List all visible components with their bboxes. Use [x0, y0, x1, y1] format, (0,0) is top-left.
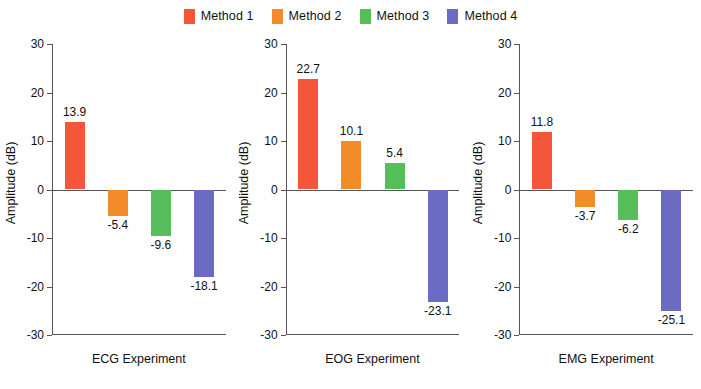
bar[interactable]: [661, 190, 681, 312]
y-axis-tick: [514, 335, 519, 336]
y-axis-tick: [514, 238, 519, 239]
bar-slot: -9.6: [139, 44, 182, 335]
y-axis-tick: [47, 335, 52, 336]
x-axis-label: EOG Experiment: [286, 352, 460, 366]
y-axis-tick-label: 20: [498, 86, 511, 100]
plot-area: 3020100-10-20-3022.710.15.4-23.1: [286, 44, 460, 335]
bar-value-label: 11.8: [531, 115, 553, 129]
y-axis-tick: [514, 93, 519, 94]
y-axis-tick-label: 10: [264, 134, 277, 148]
bar-slot: -25.1: [650, 44, 693, 335]
bar-value-label: -5.4: [107, 218, 128, 232]
chart-legend: Method 1Method 2Method 3Method 4: [0, 2, 701, 30]
legend-label: Method 2: [289, 9, 342, 23]
chart-panel: Amplitude (dB)3020100-10-20-3013.9-5.4-9…: [0, 30, 234, 389]
y-axis-tick-label: -10: [27, 231, 44, 245]
y-axis-tick-label: -30: [27, 328, 44, 342]
y-axis-tick-label: -10: [260, 231, 277, 245]
y-axis-tick-label: 20: [31, 86, 44, 100]
y-axis-label-text: Amplitude (dB): [4, 141, 18, 224]
bar-slot: -6.2: [607, 44, 650, 335]
plot-area: 3020100-10-20-3013.9-5.4-9.6-18.1: [52, 44, 226, 335]
bar-slot: -5.4: [96, 44, 139, 335]
legend-entry: Method 2: [272, 9, 342, 24]
y-axis-tick: [47, 44, 52, 45]
bar-slot: 5.4: [373, 44, 416, 335]
x-axis-label: ECG Experiment: [52, 352, 226, 366]
y-axis-tick-label: 30: [498, 37, 511, 51]
bar-slot: -18.1: [183, 44, 226, 335]
bar-slot: 22.7: [287, 44, 330, 335]
bar[interactable]: [575, 190, 595, 208]
x-axis-label: EMG Experiment: [519, 352, 693, 366]
figure: Method 1Method 2Method 3Method 4 Amplitu…: [0, 0, 701, 389]
legend-entry: Method 1: [184, 9, 254, 24]
legend-swatch-icon: [184, 9, 195, 24]
chart-panel: Amplitude (dB)3020100-10-20-3022.710.15.…: [234, 30, 468, 389]
y-axis-label-text: Amplitude (dB): [471, 141, 485, 224]
y-axis-label: Amplitude (dB): [2, 30, 20, 335]
y-axis-tick: [47, 93, 52, 94]
y-axis-tick: [281, 335, 286, 336]
y-axis-tick-label: -30: [494, 328, 511, 342]
y-axis-tick-label: -20: [260, 280, 277, 294]
bar-value-label: -6.2: [618, 222, 639, 236]
y-axis-tick: [47, 287, 52, 288]
y-axis-tick-label: 0: [271, 183, 278, 197]
y-axis-tick-label: 20: [264, 86, 277, 100]
y-axis-label: Amplitude (dB): [469, 30, 487, 335]
bar-slot: -23.1: [416, 44, 459, 335]
y-axis-tick: [514, 44, 519, 45]
bar[interactable]: [151, 190, 171, 237]
y-axis-tick: [514, 141, 519, 142]
y-axis-tick-label: -20: [494, 280, 511, 294]
bar-value-label: 5.4: [386, 146, 403, 160]
y-axis-tick-label: -30: [260, 328, 277, 342]
y-axis-label-text: Amplitude (dB): [238, 141, 252, 224]
y-axis-tick-label: 0: [505, 183, 512, 197]
bar-group: 22.710.15.4-23.1: [287, 44, 460, 335]
bar[interactable]: [341, 141, 361, 190]
bar-value-label: -25.1: [658, 313, 685, 327]
y-axis-tick: [281, 141, 286, 142]
legend-label: Method 3: [377, 9, 430, 23]
bar-slot: -3.7: [564, 44, 607, 335]
y-axis-tick: [281, 93, 286, 94]
legend-entry: Method 4: [447, 9, 517, 24]
y-axis-tick-label: -10: [494, 231, 511, 245]
y-axis-tick: [47, 238, 52, 239]
bar-value-label: -23.1: [424, 304, 451, 318]
bar-slot: 11.8: [520, 44, 563, 335]
bar[interactable]: [108, 190, 128, 216]
legend-label: Method 1: [201, 9, 254, 23]
bar[interactable]: [428, 190, 448, 302]
y-axis-tick: [281, 238, 286, 239]
y-axis-tick: [514, 287, 519, 288]
y-axis-tick-label: -20: [27, 280, 44, 294]
y-axis-tick: [281, 287, 286, 288]
plot-area: 3020100-10-20-3011.8-3.7-6.2-25.1: [519, 44, 693, 335]
legend-swatch-icon: [360, 9, 371, 24]
bar[interactable]: [194, 190, 214, 278]
bar-value-label: -9.6: [151, 238, 172, 252]
y-axis-tick-label: 10: [31, 134, 44, 148]
bar-group: 11.8-3.7-6.2-25.1: [520, 44, 693, 335]
panel-row: Amplitude (dB)3020100-10-20-3013.9-5.4-9…: [0, 30, 701, 389]
bar[interactable]: [385, 163, 405, 189]
bar[interactable]: [298, 79, 318, 189]
bar[interactable]: [532, 132, 552, 189]
bar-value-label: 10.1: [340, 124, 363, 138]
bar-group: 13.9-5.4-9.6-18.1: [53, 44, 226, 335]
legend-entry: Method 3: [360, 9, 430, 24]
bar-value-label: 13.9: [63, 105, 86, 119]
bar-slot: 13.9: [53, 44, 96, 335]
y-axis-tick-label: 10: [498, 134, 511, 148]
y-axis-tick: [281, 44, 286, 45]
bar-value-label: 22.7: [297, 62, 320, 76]
bar[interactable]: [618, 190, 638, 220]
y-axis-tick-label: 30: [31, 37, 44, 51]
legend-swatch-icon: [272, 9, 283, 24]
bar[interactable]: [65, 122, 85, 189]
y-axis-tick-label: 0: [37, 183, 44, 197]
chart-panel: Amplitude (dB)3020100-10-20-3011.8-3.7-6…: [467, 30, 701, 389]
